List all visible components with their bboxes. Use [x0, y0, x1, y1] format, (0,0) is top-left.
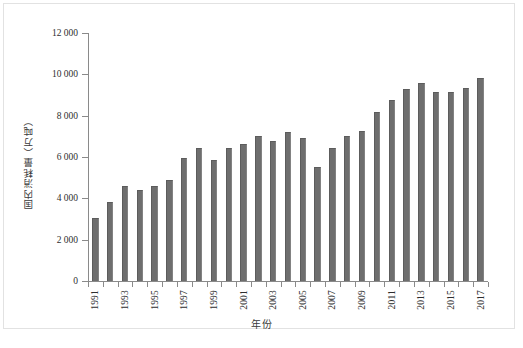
x-axis-tick-label: 1997 — [179, 290, 189, 310]
x-axis-tick-label: 1999 — [209, 290, 219, 310]
bar — [240, 144, 246, 281]
x-axis-tick — [281, 282, 282, 287]
bar — [374, 112, 380, 281]
bar — [300, 138, 306, 281]
x-axis-tick — [221, 282, 222, 287]
x-axis-tick — [207, 282, 208, 287]
x-axis-title: 年份 — [0, 316, 523, 331]
bar — [196, 148, 202, 281]
bar — [285, 132, 291, 281]
bar — [448, 92, 454, 281]
y-axis-tick-label: 6 000 — [22, 152, 78, 162]
x-axis-tick — [103, 282, 104, 287]
bar — [403, 89, 409, 281]
y-axis-tick-label: 10 000 — [22, 69, 78, 79]
x-axis-tick — [295, 282, 296, 287]
bar — [181, 158, 187, 281]
x-axis-tick-label: 2011 — [387, 290, 397, 309]
x-axis-tick — [266, 282, 267, 287]
x-axis-tick — [488, 282, 489, 287]
x-axis-tick — [118, 282, 119, 287]
x-axis-tick — [444, 282, 445, 287]
plot-area — [88, 33, 488, 281]
bar — [122, 186, 128, 281]
bar — [92, 218, 98, 281]
bar — [151, 186, 157, 281]
x-axis-tick — [162, 282, 163, 287]
x-axis-tick-label: 2001 — [239, 290, 249, 310]
y-axis-tick-label: 12 000 — [22, 28, 78, 38]
x-axis-tick — [310, 282, 311, 287]
x-axis-tick-label: 2013 — [416, 290, 426, 310]
x-axis-tick — [355, 282, 356, 287]
y-axis-tick-label: 4 000 — [22, 193, 78, 203]
x-axis-tick-label: 2003 — [268, 290, 278, 310]
x-axis-tick — [458, 282, 459, 287]
x-axis-tick — [384, 282, 385, 287]
x-axis-tick — [369, 282, 370, 287]
bar — [255, 136, 261, 281]
x-axis-tick-label: 2009 — [357, 290, 367, 310]
bar — [107, 202, 113, 281]
x-axis-tick-label: 1991 — [90, 290, 100, 310]
x-axis-tick-label: 2005 — [298, 290, 308, 310]
bar — [329, 148, 335, 281]
bar — [433, 92, 439, 281]
y-axis-tick-label: 2 000 — [22, 235, 78, 245]
x-axis-tick — [325, 282, 326, 287]
y-axis-tick-labels: 02 0004 0006 0008 00010 00012 000 — [20, 0, 78, 348]
x-axis-tick-label: 2015 — [446, 290, 456, 310]
bar — [344, 136, 350, 281]
x-axis-tick — [236, 282, 237, 287]
bar — [211, 160, 217, 281]
x-axis-tick-label: 1993 — [120, 290, 130, 310]
x-axis-tick — [192, 282, 193, 287]
bar — [418, 83, 424, 281]
bar — [389, 100, 395, 281]
x-axis-tick — [473, 282, 474, 287]
x-axis-tick — [399, 282, 400, 287]
x-axis-tick-label: 1995 — [150, 290, 160, 310]
bar — [270, 141, 276, 281]
x-axis-tick — [251, 282, 252, 287]
bar — [477, 78, 483, 281]
figure-container: 国内消耗量（万吨） 02 0004 0006 0008 00010 00012 … — [0, 0, 523, 348]
x-axis-tick-label: 2017 — [476, 290, 486, 310]
bar — [166, 180, 172, 281]
x-axis-tick-label: 2007 — [327, 290, 337, 310]
bar — [463, 88, 469, 281]
x-axis-tick — [414, 282, 415, 287]
bar — [137, 190, 143, 281]
x-axis-tick — [340, 282, 341, 287]
x-axis-tick — [132, 282, 133, 287]
bar — [314, 167, 320, 281]
x-axis-tick — [429, 282, 430, 287]
bar — [359, 131, 365, 281]
y-axis-tick-label: 0 — [22, 276, 78, 286]
y-axis-tick-label: 8 000 — [22, 111, 78, 121]
bar — [226, 148, 232, 281]
x-axis-tick — [147, 282, 148, 287]
x-axis-tick — [88, 282, 89, 287]
x-axis-tick — [177, 282, 178, 287]
